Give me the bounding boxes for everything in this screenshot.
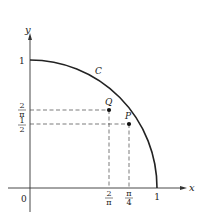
point-p	[127, 122, 131, 126]
point-q	[107, 108, 111, 112]
y-tick-1: 1	[19, 56, 25, 66]
point-q-label: Q	[105, 97, 113, 107]
x-tick-1: 1	[154, 192, 160, 202]
x-tick-2-over-pi: 2 π	[105, 189, 113, 207]
curve-c	[30, 60, 157, 188]
guide-lines	[30, 110, 129, 188]
y-tick-one-half-denominator: 2	[19, 125, 24, 134]
diagram-canvas: y x 0 C Q P 1 2 π 1 2 2 π π 4 1	[0, 0, 199, 217]
y-tick-2-over-pi-numerator: 2	[19, 101, 24, 110]
x-tick-2-over-pi-denominator: π	[106, 198, 111, 207]
origin-label: 0	[21, 194, 27, 204]
y-axis-label: y	[24, 24, 31, 35]
point-p-label: P	[124, 111, 132, 121]
x-tick-pi-over-4-denominator: 4	[126, 198, 131, 207]
x-tick-2-over-pi-numerator: 2	[106, 189, 111, 198]
y-tick-one-half: 1 2	[18, 116, 26, 134]
y-tick-one-half-numerator: 1	[19, 116, 24, 125]
x-axis-label: x	[189, 182, 195, 193]
x-tick-pi-over-4-numerator: π	[126, 189, 131, 198]
curve-label: C	[95, 66, 102, 76]
x-tick-pi-over-4: π 4	[125, 189, 133, 207]
x-axis-arrow-icon	[180, 186, 187, 190]
